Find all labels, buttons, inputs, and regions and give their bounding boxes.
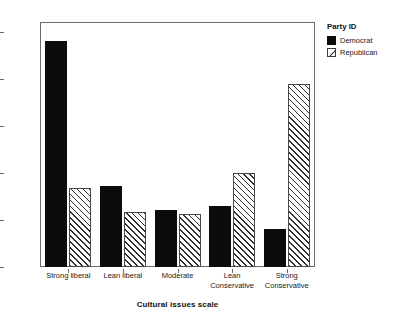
bars-layer	[41, 23, 314, 267]
bar-republican-strong-conservative	[288, 84, 310, 267]
y-axis-tick-mark	[0, 220, 4, 221]
y-axis-tick-mark	[0, 126, 4, 127]
legend: Party ID Democrat Republican	[327, 22, 395, 60]
hatched-square-icon	[327, 48, 336, 57]
bar-democrat-strong-liberal	[45, 41, 67, 267]
bar-republican-lean-liberal	[124, 212, 146, 267]
bar-republican-strong-liberal	[69, 188, 91, 267]
y-axis-tick-mark	[0, 79, 4, 80]
x-axis-title: Cultural issues scale	[40, 300, 315, 309]
bar-republican-moderate	[179, 214, 201, 267]
legend-item-democrat[interactable]: Democrat	[327, 36, 395, 45]
x-axis-label: Strong Conservative	[247, 271, 327, 290]
y-axis-tick-mark	[0, 267, 4, 268]
legend-item-republican[interactable]: Republican	[327, 48, 395, 57]
bar-republican-lean-conservative	[233, 173, 255, 267]
bar-democrat-lean-liberal	[100, 186, 122, 267]
y-axis-tick-mark	[0, 173, 4, 174]
legend-label-republican: Republican	[340, 49, 378, 57]
solid-black-square-icon	[327, 36, 336, 45]
bar-democrat-strong-conservative	[264, 229, 286, 267]
y-axis-tick-mark	[0, 32, 4, 33]
bar-democrat-lean-conservative	[209, 206, 231, 267]
bar-chart: 0%10%20%30%40%50% Strong liberalLean lib…	[0, 0, 397, 318]
legend-title: Party ID	[327, 22, 395, 31]
legend-label-democrat: Democrat	[340, 37, 373, 45]
x-axis: Strong liberalLean liberalModerateLean C…	[40, 269, 315, 303]
bar-democrat-moderate	[155, 210, 177, 267]
